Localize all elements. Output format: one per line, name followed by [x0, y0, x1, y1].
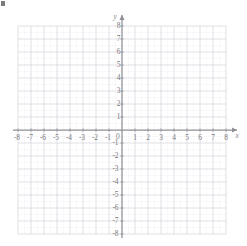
x-tick-label-4: 4: [172, 134, 176, 141]
y-tick-label-3: 3: [117, 87, 121, 94]
axis-lines: [13, 15, 237, 238]
y-tick-label-4: 4: [117, 74, 121, 81]
x-axis-label: x: [236, 133, 239, 140]
x-tick-label--3: -3: [79, 134, 85, 141]
x-tick-label-3: 3: [159, 134, 163, 141]
coordinate-grid-canvas: [0, 0, 247, 246]
y-tick-label--8: -8: [112, 230, 118, 237]
x-tick-label--6: -6: [40, 134, 46, 141]
y-axis-label: y: [114, 14, 117, 21]
x-tick-label-5: 5: [185, 134, 189, 141]
y-tick-label-6: 6: [117, 48, 121, 55]
y-tick-label-2: 2: [117, 100, 121, 107]
x-tick-label-1: 1: [133, 134, 137, 141]
y-tick-label-1: 1: [117, 113, 121, 120]
y-tick-label--7: -7: [112, 217, 118, 224]
x-tick-label-8: 8: [224, 134, 228, 141]
x-tick-label--5: -5: [53, 134, 59, 141]
x-tick-label-2: 2: [146, 134, 150, 141]
coordinate-plane-figure: -8-7-6-5-4-3-2-112345678-8-7-6-5-4-3-2-1…: [0, 0, 247, 246]
x-tick-label--2: -2: [92, 134, 98, 141]
y-tick-label--6: -6: [112, 204, 118, 211]
x-tick-label--4: -4: [66, 134, 72, 141]
x-tick-label-7: 7: [211, 134, 215, 141]
y-tick-label-5: 5: [117, 61, 121, 68]
origin-label: 0: [116, 133, 120, 140]
y-tick-label-7: 7: [117, 35, 121, 42]
x-tick-label--1: -1: [105, 134, 111, 141]
y-tick-label--3: -3: [112, 165, 118, 172]
y-tick-label--2: -2: [112, 152, 118, 159]
y-tick-label-8: 8: [117, 22, 121, 29]
x-tick-label-6: 6: [198, 134, 202, 141]
y-tick-label--5: -5: [112, 191, 118, 198]
y-tick-label--4: -4: [112, 178, 118, 185]
y-axis-arrowhead: [119, 15, 124, 20]
x-tick-label--7: -7: [27, 134, 33, 141]
x-tick-label--8: -8: [14, 134, 20, 141]
